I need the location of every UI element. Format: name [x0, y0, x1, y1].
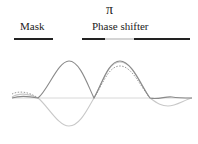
waveform-plot — [0, 0, 198, 144]
phase-shifted-field-curve — [12, 62, 192, 126]
field-amplitude-curve — [12, 61, 192, 99]
